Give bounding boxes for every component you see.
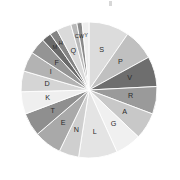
pie-slice-label-L: L [93,127,97,136]
pie-slice-label-I: I [50,67,52,76]
pie-slice-label-H: H [59,40,63,46]
pie-slice-label-M: M [53,44,58,50]
pie-chart-figure: SPVRAGLNETKDIFMHQCWY [0,0,180,180]
pie-chart-svg: SPVRAGLNETKDIFMHQCWY [0,0,180,180]
pie-slice-label-Y: Y [84,32,88,38]
pie-slices-group [21,22,157,158]
pie-slice-label-A: A [122,107,127,116]
pie-slice-label-E: E [61,118,66,127]
pie-slice-label-K: K [45,93,50,102]
pie-slice-label-F: F [55,58,60,67]
pie-slice-label-S: S [99,45,104,54]
pie-slice-label-G: G [111,119,117,128]
pie-slice-label-V: V [127,73,132,82]
pie-slice-label-N: N [74,125,79,134]
pie-slice-label-T: T [51,106,56,115]
pie-slice-label-D: D [45,79,50,88]
pie-slice-label-P: P [118,57,123,66]
pie-slice-label-Q: Q [71,46,77,55]
pie-slice-label-R: R [128,91,133,100]
